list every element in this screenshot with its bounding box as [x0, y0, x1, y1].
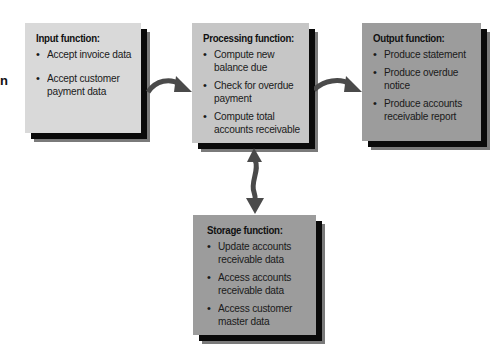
list-item: Produce overduenotice [373, 66, 473, 92]
list-item: Access accountsreceivable data [207, 271, 308, 297]
output-function-box: Output function: Produce statement Produ… [362, 23, 481, 141]
list-item: Access customermaster data [207, 302, 308, 328]
box-title: Output function: [373, 32, 461, 44]
curved-arrow-right-icon [146, 70, 194, 100]
box-body: Input function: Accept invoice data Acce… [25, 23, 141, 133]
box-title: Processing function: [203, 32, 289, 44]
bullet-list: Update accountsreceivable data Access ac… [207, 240, 308, 328]
double-headed-arrow-vertical-icon [240, 148, 270, 214]
box-body: Processing function: Compute newbalance … [192, 23, 309, 143]
list-item: Compute newbalance due [203, 48, 301, 74]
list-item: Compute totalaccounts receivable [203, 110, 301, 136]
curved-arrow-right-icon [314, 72, 364, 100]
box-body: Output function: Produce statement Produ… [362, 23, 481, 141]
box-title: Storage function: [207, 224, 296, 236]
box-body: Storage function: Update accountsreceiva… [193, 215, 316, 335]
list-item: Produce statement [373, 48, 473, 61]
bullet-list: Compute newbalance due Check for overdue… [203, 48, 301, 136]
cut-off-text-fragment: n [0, 73, 8, 88]
list-item: Produce accountsreceivable report [373, 97, 473, 123]
input-function-box: Input function: Accept invoice data Acce… [25, 23, 141, 133]
bullet-list: Produce statement Produce overduenotice … [373, 48, 473, 123]
list-item: Accept customerpayment data [36, 72, 133, 98]
list-item: Accept invoice data [36, 48, 133, 61]
list-item: Update accountsreceivable data [207, 240, 308, 266]
list-item: Check for overduepayment [203, 79, 301, 105]
box-title: Input function: [36, 32, 121, 44]
bullet-list: Accept invoice data Accept customerpayme… [36, 48, 133, 98]
storage-function-box: Storage function: Update accountsreceiva… [193, 215, 316, 335]
processing-function-box: Processing function: Compute newbalance … [192, 23, 309, 143]
